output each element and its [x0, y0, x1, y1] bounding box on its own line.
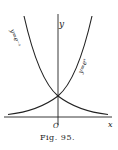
figure-caption: Fig. 95. [40, 133, 75, 142]
curve-label-exp-pos: y=eˣ [76, 57, 90, 76]
curve-exp-neg [24, 16, 108, 115]
origin-label: O [53, 122, 59, 130]
y-axis-label: y [58, 19, 65, 29]
figure-diagram: y x O y=e⁻ˣ y=eˣ Fig. 95. [0, 0, 118, 150]
x-axis-label: x [108, 120, 113, 129]
curve-label-exp-neg: y=e⁻ˣ [8, 27, 23, 49]
